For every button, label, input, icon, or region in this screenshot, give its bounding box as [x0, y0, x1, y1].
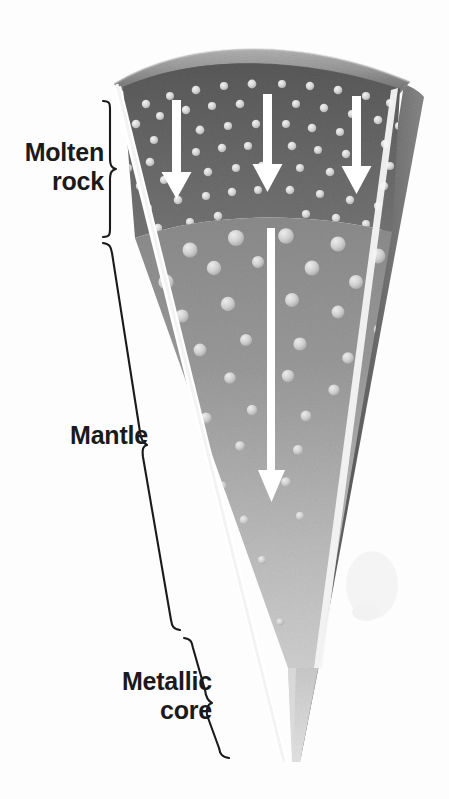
- earth-interior-diagram: Molten rock Mantle Metallic core: [0, 0, 449, 799]
- label-mantle: Mantle: [0, 421, 148, 450]
- label-molten-rock: Molten rock: [0, 138, 104, 195]
- label-metallic-core: Metallic core: [0, 667, 212, 724]
